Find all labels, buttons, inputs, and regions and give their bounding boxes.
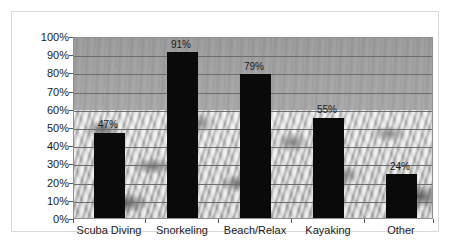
y-tick-label: 30%	[47, 159, 69, 170]
bar-kayaking	[313, 118, 344, 218]
y-tick-label: 60%	[47, 104, 69, 115]
x-tick-mark	[218, 219, 219, 223]
bar-snorkeling	[167, 52, 198, 218]
x-tick-mark	[291, 219, 292, 223]
y-tick-label: 90%	[47, 50, 69, 61]
x-tick-mark	[364, 219, 365, 223]
x-tick-label-scuba-diving: Scuba Diving	[77, 224, 142, 236]
figure-frame: 100% 90% 80% 70% 60% 50% 40% 30% 20% 10%…	[11, 11, 439, 232]
y-tick-label: 10%	[47, 195, 69, 206]
x-tick-mark	[73, 219, 74, 223]
y-tick-label: 40%	[47, 141, 69, 152]
y-axis: 100% 90% 80% 70% 60% 50% 40% 30% 20% 10%…	[23, 37, 69, 219]
bar-value-label-kayaking: 55%	[317, 104, 337, 115]
y-tick-label: 50%	[47, 123, 69, 134]
bar-value-label-beach-relax: 79%	[244, 61, 264, 72]
chart-container: 100% 90% 80% 70% 60% 50% 40% 30% 20% 10%…	[0, 0, 452, 246]
x-tick-mark	[433, 219, 434, 223]
y-tick-label: 20%	[47, 177, 69, 188]
x-tick-label-snorkeling: Snorkeling	[156, 224, 208, 236]
y-tick-label: 0%	[53, 214, 69, 225]
bar-value-label-scuba-diving: 47%	[98, 119, 118, 130]
x-tick-label-beach-relax: Beach/Relax	[224, 224, 286, 236]
bar-beach-relax	[240, 74, 271, 218]
bar-other	[386, 174, 417, 218]
x-tick-label-kayaking: Kayaking	[305, 224, 350, 236]
gridline	[74, 56, 432, 57]
bar-value-label-other: 24%	[390, 161, 410, 172]
y-tick-label: 80%	[47, 68, 69, 79]
bar-scuba-diving	[94, 133, 125, 219]
x-tick-mark	[145, 219, 146, 223]
y-tick-label: 100%	[41, 32, 69, 43]
bar-value-label-snorkeling: 91%	[171, 39, 191, 50]
x-tick-label-other: Other	[387, 224, 415, 236]
y-tick-label: 70%	[47, 86, 69, 97]
